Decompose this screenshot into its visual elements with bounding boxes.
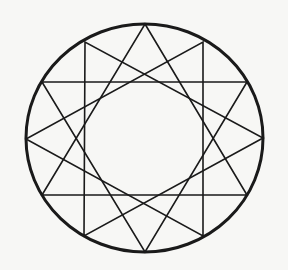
triangle-1 [26,42,203,236]
star-diagram [0,0,288,270]
dodecagram-in-circle [0,0,288,270]
triangle-0 [42,24,247,195]
circumscribed-circle [26,24,263,252]
triangle-2 [42,82,247,252]
